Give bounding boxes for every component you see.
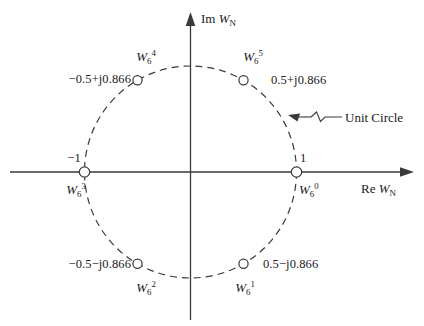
symbol-w6-4: W64 bbox=[136, 49, 156, 66]
value-w6-2: −0.5−j0.866 bbox=[69, 258, 131, 271]
unit-circle-leader bbox=[288, 112, 342, 122]
imaginary-axis-label-sub: N bbox=[230, 18, 236, 28]
symbol-w6-5-base: W bbox=[243, 49, 254, 64]
marker-w6-0 bbox=[291, 167, 301, 177]
value-w6-3: −1 bbox=[67, 152, 81, 165]
marker-w6-2 bbox=[133, 259, 142, 268]
unit-circle-annotation-label: Unit Circle bbox=[345, 111, 403, 124]
symbol-w6-0: W60 bbox=[299, 182, 319, 199]
symbol-w6-3-base: W bbox=[66, 182, 77, 197]
symbol-w6-4-sup: 4 bbox=[151, 48, 155, 58]
symbol-w6-1-base: W bbox=[235, 280, 246, 295]
symbol-w6-3-sup: 3 bbox=[81, 181, 85, 191]
marker-w6-4 bbox=[133, 76, 142, 85]
marker-w6-3 bbox=[79, 167, 89, 177]
real-axis-label-prefix: Re bbox=[361, 181, 379, 196]
symbol-w6-3: W63 bbox=[66, 182, 86, 199]
real-axis-label-sub: N bbox=[390, 188, 396, 198]
value-w6-5: 0.5+j0.866 bbox=[271, 74, 326, 87]
imaginary-axis-label-var: W bbox=[219, 11, 230, 26]
imaginary-axis-label-prefix: Im bbox=[201, 11, 219, 26]
marker-w6-1 bbox=[239, 259, 248, 268]
symbol-w6-5-sup: 5 bbox=[258, 48, 262, 58]
symbol-w6-0-base: W bbox=[299, 182, 310, 197]
imaginary-axis-label: Im WN bbox=[201, 12, 236, 27]
symbol-w6-1-sup: 1 bbox=[250, 279, 254, 289]
symbol-w6-5: W65 bbox=[243, 49, 263, 66]
value-w6-4: −0.5+j0.866 bbox=[69, 73, 131, 86]
marker-w6-5 bbox=[239, 76, 248, 85]
value-w6-0: 1 bbox=[300, 152, 306, 165]
figure-canvas bbox=[0, 0, 424, 326]
symbol-w6-2: W62 bbox=[136, 280, 156, 297]
symbol-w6-4-base: W bbox=[136, 49, 147, 64]
symbol-w6-2-base: W bbox=[136, 280, 147, 295]
real-axis bbox=[10, 167, 414, 177]
symbol-w6-0-sup: 0 bbox=[314, 181, 318, 191]
unit-circle-figure: Im WN Re WN Unit Circle W64 −0.5+j0.866 … bbox=[0, 0, 424, 326]
imaginary-axis bbox=[186, 12, 196, 320]
real-axis-label-var: W bbox=[379, 181, 390, 196]
real-axis-label: Re WN bbox=[361, 182, 396, 197]
value-w6-1: 0.5−j0.866 bbox=[263, 258, 318, 271]
symbol-w6-1: W61 bbox=[235, 280, 255, 297]
symbol-w6-2-sup: 2 bbox=[151, 279, 155, 289]
